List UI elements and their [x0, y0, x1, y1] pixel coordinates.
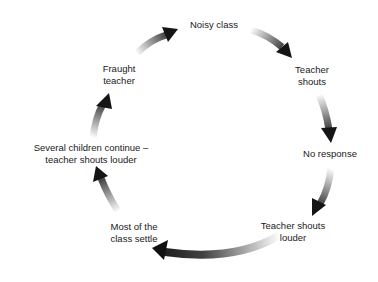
cycle-diagram: Noisy class Teacher shouts No response T… — [0, 0, 378, 282]
node-label: No response — [303, 148, 357, 160]
arrow-shouts-to-noresponse — [319, 95, 337, 143]
arrow-noresponse-to-louder — [312, 168, 331, 216]
node-fraught-teacher: Fraught teacher — [103, 63, 136, 87]
arrow-fraught-to-noisy — [137, 27, 178, 53]
node-label: Several children continue – — [34, 142, 149, 154]
node-label: Fraught — [103, 63, 136, 75]
node-label: Teacher — [295, 64, 329, 76]
node-noisy-class: Noisy class — [190, 19, 238, 31]
node-no-response: No response — [303, 148, 357, 160]
node-teacher-shouts: Teacher shouts — [295, 64, 329, 88]
node-label: louder — [261, 232, 325, 244]
arrow-settle-to-several — [93, 166, 118, 211]
arrow-noisy-to-shouts — [251, 30, 292, 58]
node-label: teacher — [103, 75, 136, 87]
node-several-continue: Several children continue – teacher shou… — [34, 142, 149, 166]
node-label: teacher shouts louder — [34, 154, 149, 166]
node-teacher-shouts-louder: Teacher shouts louder — [261, 220, 325, 244]
node-label: Teacher shouts — [261, 220, 325, 232]
node-label: Noisy class — [190, 19, 238, 31]
node-most-settle: Most of the class settle — [111, 221, 158, 245]
node-label: Most of the — [111, 221, 158, 233]
arrow-several-to-fraught — [93, 93, 112, 138]
node-label: class settle — [111, 233, 158, 245]
node-label: shouts — [295, 76, 329, 88]
